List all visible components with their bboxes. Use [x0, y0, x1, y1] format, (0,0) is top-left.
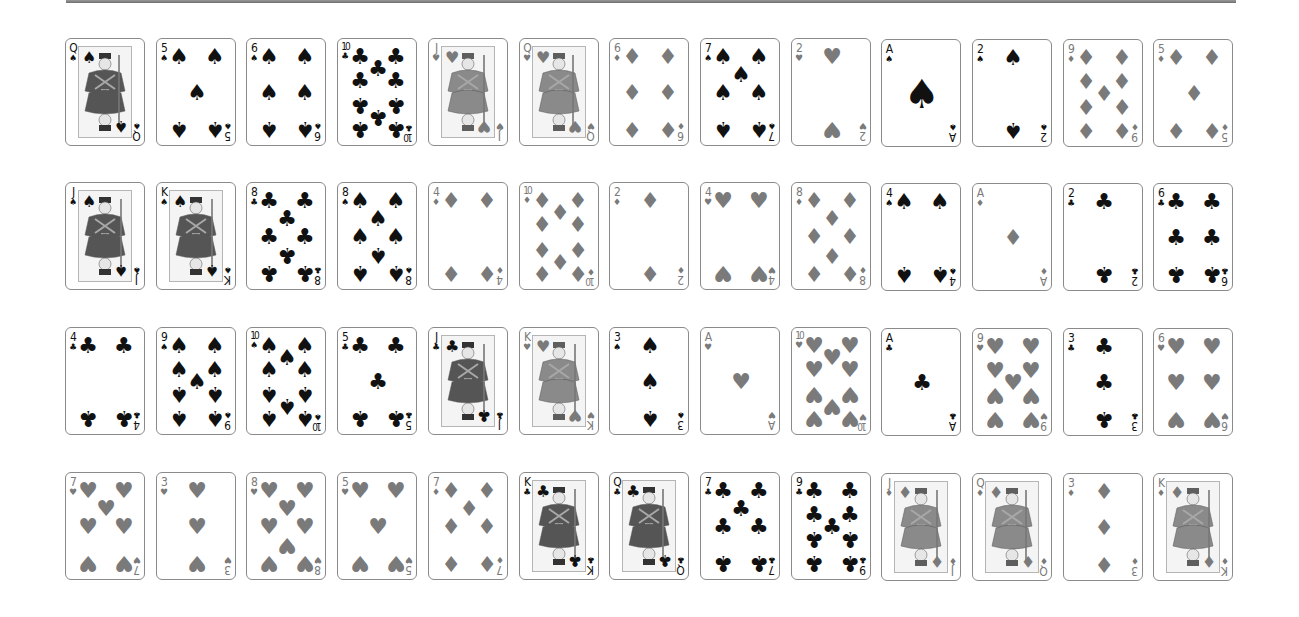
card-5-of-diamonds[interactable]: 5 ♦ ♦♦♦♦♦ 5 ♦: [1153, 39, 1233, 147]
card-10-of-clubs[interactable]: 10 ♣ ♣♣♣♣♣♣♣♣♣♣ 10 ♣: [337, 38, 417, 146]
card-10-of-diamonds[interactable]: 10 ♦ ♦♦♦♦♦♦♦♦♦♦ 10 ♦: [519, 182, 599, 290]
rank-label: 4: [134, 419, 140, 431]
hearts-icon: ♥: [976, 344, 984, 353]
card-10-of-hearts[interactable]: 10 ♥ ♥♥♥♥♥♥♥♥♥♥ 10 ♥: [791, 327, 871, 435]
card-J-of-clubs[interactable]: J ♣ ♣♣ J ♣: [428, 327, 508, 435]
clubs-icon: ♣: [69, 343, 77, 352]
card-index-bottom: 7 ♠: [767, 121, 777, 142]
card-4-of-clubs[interactable]: 4 ♣ ♣♣♣♣ 4 ♣: [65, 327, 145, 435]
hearts-icon: ♥: [186, 480, 208, 502]
card-9-of-hearts[interactable]: 9 ♥ ♥♥♥♥♥♥♥♥♥ 9 ♥: [972, 328, 1052, 436]
card-6-of-clubs[interactable]: 6 ♣ ♣♣♣♣♣♣ 6 ♣: [1153, 183, 1233, 291]
rank-label: 10: [314, 421, 321, 431]
card-3-of-spades[interactable]: 3 ♠ ♠♠♠ 3 ♠: [609, 327, 689, 435]
card-3-of-clubs[interactable]: 3 ♣ ♣♣♣ 3 ♣: [1063, 328, 1143, 436]
spades-icon: ♠: [160, 198, 168, 207]
card-index-bottom: A ♠: [948, 122, 958, 143]
card-9-of-clubs[interactable]: 9 ♣ ♣♣♣♣♣♣♣♣♣ 9 ♣: [791, 472, 871, 580]
clubs-icon: ♣: [1201, 191, 1223, 213]
card-A-of-spades[interactable]: A ♠ ♠ A ♠: [881, 39, 961, 147]
diamonds-icon: ♦: [432, 198, 440, 207]
card-J-of-diamonds[interactable]: J ♦ ♦♦ J ♦: [881, 473, 961, 581]
spades-icon: ♠: [133, 265, 141, 274]
card-K-of-diamonds[interactable]: K ♦ ♦♦ K ♦: [1153, 473, 1233, 581]
diamonds-icon: ♦: [1202, 553, 1216, 569]
card-Q-of-diamonds[interactable]: Q ♦ ♦♦ Q ♦: [972, 473, 1052, 581]
card-8-of-clubs[interactable]: 8 ♣ ♣♣♣♣♣♣♣♣ 8 ♣: [246, 182, 326, 290]
pip-layout: ♥♥♥♥♥♥♥♥: [259, 479, 315, 575]
rank-label: 3: [1132, 420, 1138, 432]
court-figure: ♣♣: [622, 480, 676, 572]
card-Q-of-clubs[interactable]: Q ♣ ♣♣ Q ♣: [609, 472, 689, 580]
card-index-bottom: 9 ♣: [858, 555, 868, 576]
card-K-of-hearts[interactable]: K ♥ ♥♥ K ♥: [519, 327, 599, 435]
card-8-of-diamonds[interactable]: 8 ♦ ♦♦♦♦♦♦♦♦ 8 ♦: [791, 182, 871, 290]
card-K-of-spades[interactable]: K ♠ ♠♠ K ♠: [156, 182, 236, 290]
card-A-of-diamonds[interactable]: A ♦ ♦ A ♦: [972, 183, 1052, 291]
clubs-icon: ♣: [568, 552, 582, 568]
card-6-of-diamonds[interactable]: 6 ♦ ♦♦♦♦♦♦ 6 ♦: [609, 38, 689, 146]
card-6-of-spades[interactable]: 6 ♠ ♠♠♠♠♠♠ 6 ♠: [246, 38, 326, 146]
spades-icon: ♠: [224, 121, 232, 130]
hearts-icon: ♥: [1020, 336, 1042, 358]
card-A-of-hearts[interactable]: A ♥ ♥ A ♥: [700, 327, 780, 435]
clubs-icon: ♣: [1131, 411, 1139, 420]
hearts-icon: ♥: [367, 516, 389, 538]
card-5-of-hearts[interactable]: 5 ♥ ♥♥♥♥♥ 5 ♥: [337, 472, 417, 580]
card-7-of-spades[interactable]: 7 ♠ ♠♠♠♠♠♠♠ 7 ♠: [700, 38, 780, 146]
card-index-bottom: 9 ♠: [223, 410, 233, 431]
card-2-of-spades[interactable]: 2 ♠ ♠♠ 2 ♠: [972, 39, 1052, 147]
card-J-of-hearts[interactable]: J ♥ ♥♥ J ♥: [428, 38, 508, 146]
card-5-of-clubs[interactable]: 5 ♣ ♣♣♣♣♣ 5 ♣: [337, 327, 417, 435]
card-3-of-diamonds[interactable]: 3 ♦ ♦♦♦ 3 ♦: [1063, 473, 1143, 581]
spades-icon: ♠: [768, 121, 776, 130]
card-5-of-spades[interactable]: 5 ♠ ♠♠♠♠♠ 5 ♠: [156, 38, 236, 146]
card-4-of-diamonds[interactable]: 4 ♦ ♦♦♦♦ 4 ♦: [428, 182, 508, 290]
clubs-icon: ♣: [432, 343, 440, 352]
diamonds-icon: ♦: [523, 196, 531, 205]
card-9-of-spades[interactable]: 9 ♠ ♠♠♠♠♠♠♠♠♠ 9 ♠: [156, 327, 236, 435]
card-A-of-clubs[interactable]: A ♣ ♣ A ♣: [881, 328, 961, 436]
card-index-bottom: 5 ♦: [1220, 122, 1230, 143]
diamonds-icon: ♦: [567, 214, 589, 236]
clubs-icon: ♣: [748, 516, 770, 538]
hearts-icon: ♥: [839, 359, 861, 381]
rank-label: 8: [315, 564, 321, 576]
card-2-of-clubs[interactable]: 2 ♣ ♣♣ 2 ♣: [1063, 183, 1143, 291]
hearts-icon: ♥: [1221, 411, 1229, 420]
spades-icon: ♠: [204, 335, 226, 357]
card-6-of-hearts[interactable]: 6 ♥ ♥♥♥♥♥♥ 6 ♥: [1153, 328, 1233, 436]
card-index-bottom: 4 ♦: [495, 265, 505, 286]
card-Q-of-hearts[interactable]: Q ♥ ♥♥ Q ♥: [519, 38, 599, 146]
rank-label: 5: [406, 419, 412, 431]
hearts-icon: ♥: [1157, 344, 1165, 353]
card-J-of-spades[interactable]: J ♠ ♠♠ J ♠: [65, 182, 145, 290]
card-2-of-diamonds[interactable]: 2 ♦ ♦♦ 2 ♦: [609, 182, 689, 290]
card-8-of-hearts[interactable]: 8 ♥ ♥♥♥♥♥♥♥♥ 8 ♥: [246, 472, 326, 580]
card-Q-of-spades[interactable]: Q ♠ ♠♠ Q ♠: [65, 38, 145, 146]
diamonds-icon: ♦: [885, 489, 893, 498]
card-10-of-spades[interactable]: 10 ♠ ♠♠♠♠♠♠♠♠♠♠ 10 ♠: [246, 327, 326, 435]
card-3-of-hearts[interactable]: 3 ♥ ♥♥♥ 3 ♥: [156, 472, 236, 580]
pip-layout: ♣♣♣♣♣♣♣♣♣: [804, 479, 860, 575]
clubs-icon: ♣: [885, 344, 893, 353]
clubs-icon: ♣: [314, 265, 322, 274]
clubs-icon: ♣: [341, 52, 349, 61]
card-index-bottom: 2 ♠: [1039, 122, 1049, 143]
card-9-of-diamonds[interactable]: 9 ♦ ♦♦♦♦♦♦♦♦♦ 9 ♦: [1063, 39, 1143, 147]
card-7-of-hearts[interactable]: 7 ♥ ♥♥♥♥♥♥♥ 7 ♥: [65, 472, 145, 580]
clubs-icon: ♣: [349, 407, 371, 429]
card-7-of-diamonds[interactable]: 7 ♦ ♦♦♦♦♦♦♦ 7 ♦: [428, 472, 508, 580]
card-index-bottom: 3 ♣: [1130, 411, 1140, 432]
rank-label: Q: [587, 130, 595, 142]
card-4-of-hearts[interactable]: 4 ♥ ♥♥♥♥ 4 ♥: [700, 182, 780, 290]
card-2-of-hearts[interactable]: 2 ♥ ♥♥ 2 ♥: [791, 38, 871, 146]
card-index-bottom: K ♥: [586, 410, 596, 431]
diamonds-icon: ♦: [1165, 47, 1187, 69]
card-K-of-clubs[interactable]: K ♣ ♣♣ K ♣: [519, 472, 599, 580]
card-4-of-spades[interactable]: 4 ♠ ♠♠♠♠ 4 ♠: [881, 183, 961, 291]
card-8-of-spades[interactable]: 8 ♠ ♠♠♠♠♠♠♠♠ 8 ♠: [337, 182, 417, 290]
rank-label: A: [1041, 275, 1047, 287]
card-7-of-clubs[interactable]: 7 ♣ ♣♣♣♣♣♣♣ 7 ♣: [700, 472, 780, 580]
clubs-icon: ♣: [587, 555, 595, 564]
